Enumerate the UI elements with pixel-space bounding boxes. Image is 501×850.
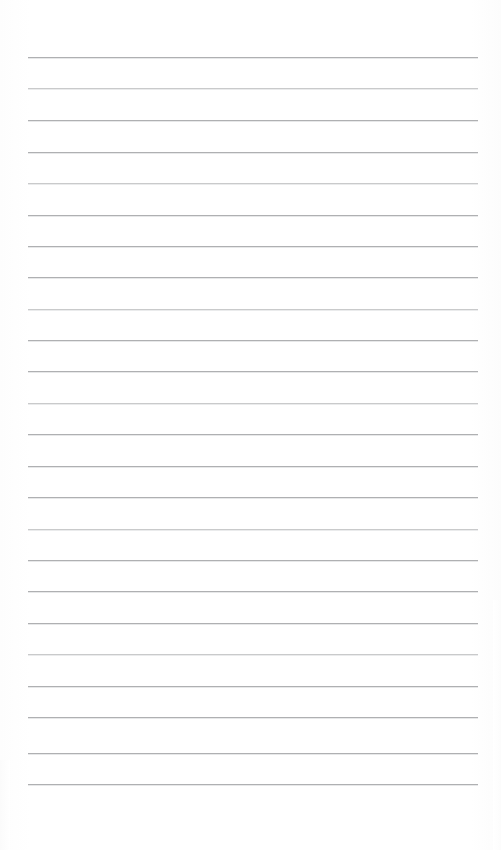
ruled-line: [28, 560, 478, 561]
ruled-line: [28, 183, 478, 184]
ruled-line: [28, 753, 478, 754]
ruled-line: [28, 340, 478, 341]
ruled-line: [28, 403, 478, 404]
ruled-line: [28, 784, 478, 785]
ruled-line: [28, 434, 478, 435]
ruled-line: [28, 309, 478, 310]
ruled-line: [28, 654, 478, 655]
ruled-line: [28, 623, 478, 624]
ruled-line: [28, 246, 478, 247]
ruled-line: [28, 277, 478, 278]
ruled-line: [28, 88, 478, 89]
ruled-line: [28, 529, 478, 530]
lined-page: [0, 0, 501, 850]
ruled-lines-layer: [0, 0, 501, 850]
ruled-line: [28, 591, 478, 592]
ruled-line: [28, 497, 478, 498]
ruled-line: [28, 152, 478, 153]
ruled-line: [28, 120, 478, 121]
ruled-line: [28, 717, 478, 718]
ruled-line: [28, 686, 478, 687]
ruled-line: [28, 57, 478, 58]
ruled-line: [28, 371, 478, 372]
ruled-line: [28, 215, 478, 216]
ruled-line: [28, 466, 478, 467]
